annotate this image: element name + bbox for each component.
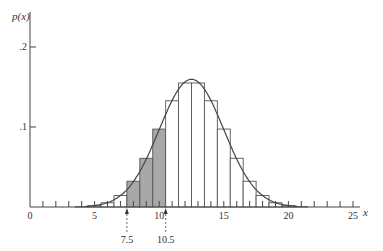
bar-x-11 [166, 101, 179, 207]
x-tick-label: 10 [154, 210, 164, 221]
arrow-up-icon [125, 208, 129, 214]
bar-x-13 [192, 83, 205, 207]
x-tick-label: 20 [283, 210, 293, 221]
marker-label: 10.5 [157, 234, 175, 245]
chart-canvas: 0510152025.1.2 7.510.5 p(x) x [0, 0, 383, 251]
interval-markers: 7.510.5 [121, 208, 175, 245]
x-tick-label: 0 [28, 210, 33, 221]
arrow-up-icon [164, 208, 168, 214]
bar-x-12 [179, 83, 192, 207]
bar-x-16 [230, 158, 243, 207]
marker-label: 7.5 [121, 234, 134, 245]
x-tick-label: 25 [348, 210, 358, 221]
x-axis-label: x [362, 206, 368, 218]
x-tick-label: 15 [219, 210, 229, 221]
y-tick-label: .2 [20, 41, 28, 52]
y-tick-label: .1 [20, 121, 28, 132]
bar-x-9 [140, 158, 153, 207]
histogram-normal-approximation-chart: 0510152025.1.2 7.510.5 p(x) x [0, 0, 383, 251]
histogram-bars [75, 83, 308, 207]
x-tick-label: 5 [92, 210, 97, 221]
bar-x-14 [204, 101, 217, 207]
y-axis-label: p(x) [11, 10, 30, 23]
